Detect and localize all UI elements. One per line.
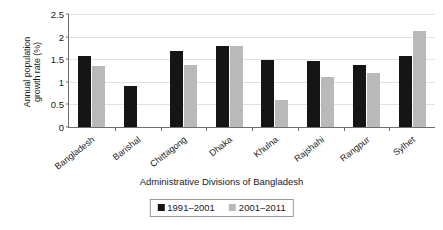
x-axis-category-label: Dhaka: [207, 134, 234, 158]
bar: [307, 61, 320, 127]
bar-groups: [69, 14, 435, 127]
x-axis-label-slot: Sylhet: [388, 131, 434, 175]
bar-group: [298, 14, 344, 127]
bar: [367, 73, 380, 127]
bar: [413, 31, 426, 127]
x-axis-category-label: Khulna: [252, 134, 280, 159]
population-growth-bar-chart: Annual population growth rate (%) 00.511…: [0, 0, 443, 230]
plot-area: 00.511.522.5: [68, 14, 435, 128]
x-axis-label-slot: Chittagong: [160, 131, 206, 175]
x-axis-category-label: Bangladesh: [53, 134, 97, 171]
bar: [230, 46, 243, 127]
legend-entry: 1991–2001: [157, 202, 215, 213]
x-axis-label-slot: Bangladesh: [68, 131, 114, 175]
y-axis-tick-label: 1: [59, 76, 64, 87]
bar: [353, 65, 366, 127]
x-axis-category-label: Rangpur: [338, 134, 371, 163]
x-axis-category-label: Sylhet: [391, 134, 417, 157]
y-axis-tick-label: 0: [59, 122, 64, 133]
legend-entry: 2001–2011: [229, 202, 286, 213]
bar-group: [69, 14, 115, 127]
bar: [184, 65, 197, 127]
y-axis-tick-label: 0.5: [51, 99, 64, 110]
bar: [170, 51, 183, 127]
legend-swatch: [157, 204, 164, 211]
legend-swatch: [229, 204, 236, 211]
x-axis-label-slot: Dhaka: [205, 131, 251, 175]
x-axis-label-slot: Barishal: [114, 131, 160, 175]
bar: [216, 46, 229, 127]
bar: [78, 56, 91, 127]
bar: [124, 86, 137, 127]
x-axis-category-labels: BangladeshBarishalChittagongDhakaKhulnaR…: [68, 131, 434, 175]
legend-label: 2001–2011: [239, 202, 286, 213]
x-axis-label-slot: Rajshahi: [297, 131, 343, 175]
bar-group: [161, 14, 207, 127]
y-axis-title-line-2: growth rate (%): [32, 42, 43, 102]
bar-group: [389, 14, 435, 127]
x-axis-category-label: Barishal: [111, 134, 143, 162]
legend-label: 1991–2001: [167, 202, 215, 213]
y-axis-title: Annual population growth rate (%): [17, 2, 47, 142]
x-axis-label-slot: Rangpur: [343, 131, 389, 175]
bar-group: [344, 14, 390, 127]
x-axis-title: Administrative Divisions of Bangladesh: [0, 176, 443, 187]
y-axis-tick-label: 1.5: [51, 54, 64, 65]
bar-group: [252, 14, 298, 127]
x-axis-category-label: Rajshahi: [292, 134, 326, 163]
bar: [321, 77, 334, 127]
bar-group: [115, 14, 161, 127]
bar-group: [206, 14, 252, 127]
x-axis-label-slot: Khulna: [251, 131, 297, 175]
bar: [275, 100, 288, 127]
y-axis-title-line-1: Annual population: [22, 37, 33, 107]
bar: [261, 60, 274, 127]
bar: [92, 66, 105, 127]
chart-legend: 1991–20012001–2011: [149, 199, 293, 217]
y-axis-tick-label: 2: [59, 31, 64, 42]
bar: [399, 56, 412, 127]
y-axis-tick-label: 2.5: [51, 9, 64, 20]
